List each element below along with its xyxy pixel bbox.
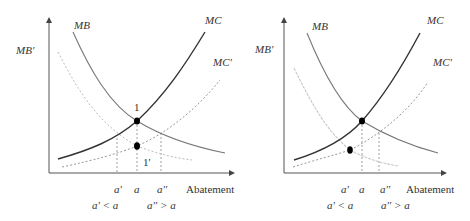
- mb-curve: [73, 32, 225, 153]
- abatement-diagram: MB' MB MC MC' 1 1' a' a a'' Abatement a'…: [0, 0, 470, 221]
- mb-curve: [307, 33, 438, 153]
- y-axis-label: MB': [15, 44, 35, 56]
- left-panel: MB' MB MC MC' 1 1' a' a a'' Abatement a'…: [15, 14, 234, 211]
- new-equilibrium-point: [347, 146, 353, 154]
- mb-prime-curve: [294, 68, 398, 166]
- mc-curve: [58, 32, 205, 159]
- point-1-prime-label: 1': [143, 156, 151, 168]
- mc-prime-label: MC': [432, 56, 453, 68]
- tick-a: a: [134, 183, 140, 195]
- mc-label: MC: [426, 14, 444, 26]
- tick-a-double-prime: a'': [157, 183, 168, 195]
- note-a-prime-less-a: a' < a: [92, 199, 119, 211]
- point-1-label: 1: [134, 101, 140, 113]
- mb-label: MB: [311, 20, 328, 32]
- note-a-double-prime-greater-a: a'' > a: [147, 199, 176, 211]
- right-panel: MB' MB MC MC' a' a a'' Abatement a' < a …: [254, 14, 454, 211]
- mc-label: MC: [204, 14, 222, 26]
- x-axis-label: Abatement: [186, 183, 234, 195]
- equilibrium-point-1: [134, 118, 140, 125]
- equilibrium-point-1-prime: [134, 142, 140, 150]
- mb-prime-curve: [58, 52, 192, 160]
- note-a-double-prime-greater-a: a'' > a: [381, 199, 410, 211]
- note-a-prime-less-a: a' < a: [327, 199, 354, 211]
- equilibrium-point: [359, 118, 365, 125]
- tick-a-prime: a': [114, 183, 123, 195]
- tick-a-prime: a': [341, 183, 350, 195]
- mb-label: MB: [73, 19, 90, 31]
- mc-prime-label: MC': [212, 56, 233, 68]
- y-axis-label: MB': [254, 43, 274, 55]
- mc-prime-curve: [293, 82, 428, 167]
- tick-a-double-prime: a'': [380, 183, 391, 195]
- tick-a: a: [359, 183, 365, 195]
- x-axis-label: Abatement: [406, 183, 454, 195]
